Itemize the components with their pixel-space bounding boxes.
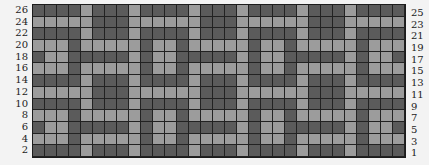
light-cell bbox=[81, 110, 93, 122]
light-cell bbox=[153, 40, 165, 52]
dark-cell bbox=[369, 99, 381, 111]
dark-cell bbox=[249, 75, 261, 87]
dark-cell bbox=[153, 99, 165, 111]
light-cell bbox=[345, 5, 357, 17]
dark-cell bbox=[177, 5, 189, 17]
dark-cell bbox=[117, 145, 129, 157]
row-label-left: 12 bbox=[0, 86, 28, 98]
light-cell bbox=[57, 87, 69, 99]
light-cell bbox=[45, 52, 57, 64]
light-cell bbox=[381, 110, 393, 122]
dark-cell bbox=[309, 75, 321, 87]
light-cell bbox=[393, 134, 405, 146]
light-cell bbox=[357, 87, 369, 99]
light-cell bbox=[81, 17, 93, 29]
dark-cell bbox=[261, 99, 273, 111]
light-cell bbox=[129, 75, 141, 87]
dark-cell bbox=[33, 28, 45, 40]
dark-cell bbox=[285, 110, 297, 122]
row-label-right: 1 bbox=[411, 147, 429, 159]
dark-cell bbox=[225, 28, 237, 40]
light-cell bbox=[129, 5, 141, 17]
dark-cell bbox=[393, 75, 405, 87]
light-cell bbox=[189, 17, 201, 29]
dark-cell bbox=[201, 5, 213, 17]
row-label-right: 5 bbox=[411, 124, 429, 136]
light-cell bbox=[237, 99, 249, 111]
light-cell bbox=[165, 87, 177, 99]
light-cell bbox=[225, 134, 237, 146]
dark-cell bbox=[273, 5, 285, 17]
light-cell bbox=[345, 87, 357, 99]
light-cell bbox=[261, 134, 273, 146]
dark-cell bbox=[321, 75, 333, 87]
dark-cell bbox=[309, 52, 321, 64]
light-cell bbox=[81, 28, 93, 40]
dark-cell bbox=[393, 145, 405, 157]
dark-cell bbox=[213, 17, 225, 29]
dark-cell bbox=[249, 52, 261, 64]
light-cell bbox=[273, 52, 285, 64]
dark-cell bbox=[381, 75, 393, 87]
light-cell bbox=[357, 17, 369, 29]
dark-cell bbox=[93, 75, 105, 87]
row-label-left: 2 bbox=[0, 144, 28, 156]
light-cell bbox=[261, 40, 273, 52]
light-cell bbox=[273, 122, 285, 134]
light-cell bbox=[141, 17, 153, 29]
dark-cell bbox=[117, 28, 129, 40]
dark-cell bbox=[141, 145, 153, 157]
light-cell bbox=[201, 110, 213, 122]
dark-cell bbox=[141, 134, 153, 146]
row-label-right: 17 bbox=[411, 54, 429, 66]
light-cell bbox=[189, 63, 201, 75]
light-cell bbox=[381, 63, 393, 75]
dark-cell bbox=[213, 87, 225, 99]
dark-cell bbox=[117, 75, 129, 87]
light-cell bbox=[45, 110, 57, 122]
light-cell bbox=[201, 134, 213, 146]
light-cell bbox=[369, 40, 381, 52]
light-cell bbox=[81, 134, 93, 146]
dark-cell bbox=[297, 122, 309, 134]
light-cell bbox=[129, 63, 141, 75]
dark-cell bbox=[369, 5, 381, 17]
light-cell bbox=[381, 52, 393, 64]
row-label-left: 16 bbox=[0, 62, 28, 74]
light-cell bbox=[45, 40, 57, 52]
dark-cell bbox=[261, 28, 273, 40]
dark-cell bbox=[141, 99, 153, 111]
light-cell bbox=[381, 40, 393, 52]
light-cell bbox=[237, 40, 249, 52]
dark-cell bbox=[81, 122, 93, 134]
dark-cell bbox=[141, 40, 153, 52]
dark-cell bbox=[321, 87, 333, 99]
dark-cell bbox=[225, 145, 237, 157]
light-cell bbox=[57, 63, 69, 75]
light-cell bbox=[57, 52, 69, 64]
light-cell bbox=[237, 145, 249, 157]
light-cell bbox=[153, 63, 165, 75]
dark-cell bbox=[165, 5, 177, 17]
light-cell bbox=[117, 63, 129, 75]
light-cell bbox=[165, 17, 177, 29]
dark-cell bbox=[153, 75, 165, 87]
dark-cell bbox=[369, 145, 381, 157]
dark-cell bbox=[357, 75, 369, 87]
light-cell bbox=[237, 87, 249, 99]
dark-cell bbox=[225, 122, 237, 134]
dark-cell bbox=[261, 145, 273, 157]
light-cell bbox=[321, 110, 333, 122]
row-label-right: 7 bbox=[411, 112, 429, 124]
light-cell bbox=[369, 63, 381, 75]
row-label-right: 21 bbox=[411, 30, 429, 42]
light-cell bbox=[81, 40, 93, 52]
dark-cell bbox=[213, 145, 225, 157]
light-cell bbox=[93, 63, 105, 75]
light-cell bbox=[333, 40, 345, 52]
dark-cell bbox=[333, 145, 345, 157]
light-cell bbox=[177, 87, 189, 99]
light-cell bbox=[213, 40, 225, 52]
light-cell bbox=[93, 40, 105, 52]
light-cell bbox=[153, 17, 165, 29]
